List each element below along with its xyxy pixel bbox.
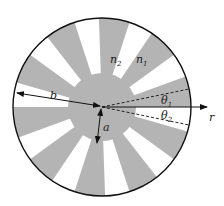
a-label: a — [103, 121, 110, 134]
b-label: b — [50, 89, 57, 102]
n2-label: n2 — [110, 53, 122, 68]
theta2-label: θ2 — [161, 109, 173, 124]
fiber-cross-section-diagram: n2 n1 b a θ1 θ2 r — [0, 0, 224, 206]
r-label: r — [209, 111, 215, 124]
